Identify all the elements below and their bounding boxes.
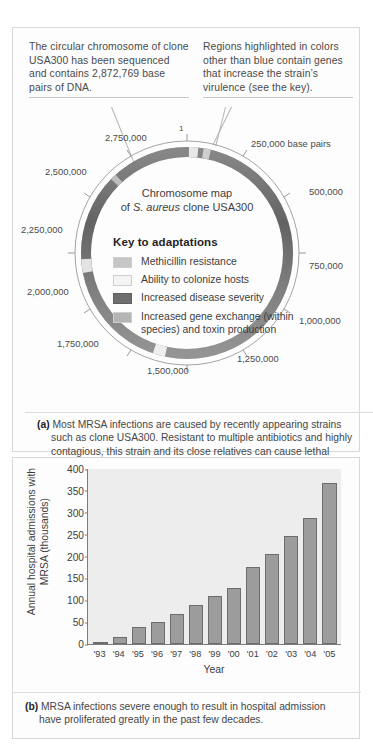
x-tick-96: '96 [147,649,166,659]
map-title-line1: Chromosome map [142,187,232,199]
bar-96 [151,622,165,644]
key-title: Key to adaptations [113,236,303,248]
x-tick-05: '05 [320,649,339,659]
x-tick-97: '97 [167,649,186,659]
x-tick-99: '99 [205,649,224,659]
y-tick-300: 300 [67,507,84,518]
map-title-suffix: clone USA300 [180,201,253,213]
bar-04 [303,518,317,644]
caption-b-label: (b) [25,701,38,712]
ring-label-1000000: 1,000,000 [299,315,341,326]
bar-93 [93,642,107,644]
bar-95 [132,627,146,644]
key-swatch-gene-exchange [113,312,132,323]
key-label-gene-exchange: Increased gene exchange (within species)… [141,310,303,336]
y-tick-0: 0 [78,639,84,650]
bar-column [244,469,263,644]
map-title-species: S. aureus [133,201,180,213]
caption-b-body: MRSA infections severe enough to result … [39,701,326,725]
x-tick-01: '01 [243,649,262,659]
ring-label-2250000: 2,250,000 [21,224,63,235]
key-to-adaptations: Key to adaptations Methicillin resistanc… [113,236,303,341]
ring-label-750000: 750,000 [309,260,343,271]
y-tick-400: 400 [67,464,84,475]
mrsa-admissions-chart: Annual hospital admissions with MRSA (th… [13,461,361,686]
bar-01 [246,567,260,644]
key-label-methicillin: Methicillin resistance [141,255,237,268]
bar-column [301,469,320,644]
key-swatch-severity [113,293,132,304]
x-tick-94: '94 [109,649,128,659]
bar-column [282,469,301,644]
caption-b-text: (b) MRSA infections severe enough to res… [25,700,349,727]
ring-label-1500000: 1,500,000 [147,365,189,376]
key-swatch-methicillin [113,257,132,268]
bar-column [91,469,110,644]
caption-a-label: (a) [37,419,50,430]
y-tick-50: 50 [73,617,84,628]
bar-05 [322,483,336,644]
chart-plot-area: 050100150200250300350400 [87,469,341,645]
key-item-methicillin: Methicillin resistance [113,255,303,268]
key-item-colonize: Ability to colonize hosts [113,273,303,286]
bar-column [320,469,339,644]
caption-b: (b) MRSA infections severe enough to res… [13,692,361,733]
ring-label-500000: 500,000 [309,186,343,197]
ring-label-1750000: 1,750,000 [57,338,99,349]
y-tick-150: 150 [67,573,84,584]
y-tick-200: 200 [67,551,84,562]
x-tick-03: '03 [282,649,301,659]
ring-label-2000000: 2,000,000 [27,286,69,297]
bar-99 [208,596,222,644]
bar-97 [170,614,184,644]
y-tick-100: 100 [67,595,84,606]
bar-column [263,469,282,644]
x-tick-93: '93 [90,649,109,659]
chart-x-axis-label: Year [87,664,341,675]
ring-label-2750000: 2,750,000 [105,132,147,143]
ring-label-2500000: 2,500,000 [45,166,87,177]
ring-label-1250000: 1,250,000 [237,353,279,364]
bar-column [186,469,205,644]
panel-b-bar-chart: Annual hospital admissions with MRSA (th… [12,457,360,739]
x-tick-04: '04 [301,649,320,659]
map-title-prefix: of [121,201,133,213]
bar-column [110,469,129,644]
chart-bars [89,469,341,644]
chart-y-axis-label: Annual hospital admissions with MRSA (th… [26,467,51,617]
bar-column [129,469,148,644]
y-tick-350: 350 [67,485,84,496]
key-swatch-colonize [113,275,132,286]
x-tick-02: '02 [262,649,281,659]
key-item-severity: Increased disease severity [113,291,303,304]
bar-column [205,469,224,644]
key-item-gene-exchange: Increased gene exchange (within species)… [113,310,303,336]
bar-column [148,469,167,644]
bar-02 [265,554,279,644]
bar-00 [227,588,241,644]
key-label-severity: Increased disease severity [141,291,264,304]
ring-label-1: 1 [179,124,183,133]
y-tick-250: 250 [67,529,84,540]
bar-column [225,469,244,644]
chromosome-circle-diagram: 1 250,000 base pairs 500,000 750,000 1,0… [13,28,361,453]
panel-a-chromosome-map: The circular chromosome of clone USA300 … [12,27,360,452]
map-title: Chromosome map of S. aureus clone USA300 [87,186,287,214]
bar-column [167,469,186,644]
ring-label-250000: 250,000 base pairs [251,138,331,149]
x-tick-95: '95 [128,649,147,659]
x-tick-00: '00 [224,649,243,659]
bar-94 [113,637,127,644]
key-label-colonize: Ability to colonize hosts [141,273,249,286]
bar-03 [284,536,298,644]
chart-x-ticks: '93'94'95'96'97'98'99'00'01'02'03'04'05 [88,649,341,659]
x-tick-98: '98 [186,649,205,659]
bar-98 [189,605,203,644]
